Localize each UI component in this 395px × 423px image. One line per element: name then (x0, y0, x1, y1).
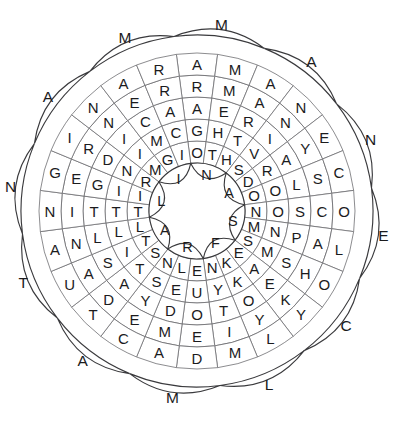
ring-letter: T (133, 203, 142, 220)
inner-petal-letter: L (157, 193, 165, 209)
ring-letter: O (191, 306, 203, 323)
ring-letter: D (192, 350, 203, 367)
ring-letter: M (158, 323, 171, 340)
outer-petal-letter: C (341, 317, 352, 334)
ring-letter: N (280, 114, 291, 131)
ring-letter: K (280, 291, 290, 308)
ring-letter: R (192, 78, 203, 95)
ring-letter: R (262, 162, 273, 179)
ring-letter: A (118, 75, 128, 92)
ring-letter: I (117, 182, 121, 199)
inner-petal-letter: A (160, 222, 170, 238)
ring-letter: K (221, 254, 231, 271)
ring-letter: S (313, 170, 323, 187)
ring-letter: A (192, 100, 202, 117)
ring-letter: E (265, 275, 275, 292)
inner-petals-layer (149, 163, 245, 259)
ring-letter: E (129, 94, 139, 111)
outer-petal-letter: M (166, 389, 179, 406)
ring-letter: D (103, 291, 114, 308)
ring-letter: P (291, 229, 301, 246)
outer-petal-letter: N (5, 178, 16, 195)
ring-letter: N (121, 162, 132, 179)
ring-letter: T (111, 203, 120, 220)
ring-letter: R (243, 113, 254, 130)
outer-petal-letter: N (365, 131, 376, 148)
ring-letter: S (103, 254, 113, 271)
ring-letter: L (93, 229, 101, 246)
outer-petal-letter: T (19, 274, 29, 291)
word-wheel-svg[interactable]: MANECLMATNAMOTHSDONMSEKNELNSTLTIRMGIGHTV… (0, 0, 395, 423)
outer-petal-letter: M (215, 16, 228, 33)
ring-letter: S (150, 244, 160, 261)
ring-letter: T (135, 260, 144, 277)
ring-letter: M (223, 82, 236, 99)
outer-petal-letter: A (306, 53, 317, 70)
outer-petal-letter: A (43, 88, 54, 105)
ring-letter: G (49, 164, 61, 181)
ring-letter: M (229, 61, 242, 78)
ring-letter: G (162, 151, 174, 168)
ring-letter: G (191, 122, 203, 139)
ring-letter: N (103, 114, 114, 131)
ring-letter: Y (140, 292, 150, 309)
ring-letter: I (125, 243, 129, 260)
inner-petal-letter: R (182, 239, 192, 255)
ring-letter: E (319, 129, 329, 146)
ring-letter: D (165, 302, 176, 319)
ring-letter: E (192, 328, 202, 345)
outer-petal-letter: A (77, 352, 88, 369)
ring-letter: E (219, 103, 229, 120)
ring-letter: E (129, 311, 139, 328)
ring-letter: N (45, 203, 56, 220)
ring-letter: I (180, 146, 184, 163)
ring-letter: C (171, 124, 182, 141)
outer-petal[interactable] (15, 144, 35, 234)
ring-letter: R (83, 140, 94, 157)
ring-letter: D (102, 151, 113, 168)
ring-letter: S (295, 203, 305, 220)
ring-letter: I (138, 145, 142, 162)
ring-letter: S (151, 273, 161, 290)
ring-letter: A (154, 344, 164, 361)
ring-letter: S (243, 232, 253, 249)
ring-letter: L (178, 259, 186, 276)
ring-letter: H (221, 151, 232, 168)
ring-letter: Y (296, 306, 306, 323)
ring-letter: A (254, 94, 264, 111)
ring-letter: O (338, 203, 350, 220)
ring-letter: A (281, 151, 291, 168)
ring-letter: R (159, 82, 170, 99)
ring-letter: T (89, 203, 98, 220)
ring-letter: I (122, 130, 126, 147)
ring-letter: M (149, 161, 162, 178)
ring-letter: L (335, 241, 343, 258)
ring-letter: S (281, 254, 291, 271)
ring-letter: N (296, 99, 307, 116)
ring-letter: K (232, 273, 242, 290)
inner-petal-letter: A (224, 185, 234, 201)
ring-letter: G (92, 176, 104, 193)
inner-petal-letter: S (228, 213, 238, 229)
ring-letter: Y (213, 281, 223, 298)
ring-letter: I (268, 130, 272, 147)
ring-letter: E (71, 170, 81, 187)
ring-letter: H (213, 124, 224, 141)
ring-letter: N (71, 235, 82, 252)
ring-letter: V (249, 145, 259, 162)
ring-letter: N (207, 259, 218, 276)
ring-letter: U (64, 276, 75, 293)
ring-letter: N (162, 254, 173, 271)
ring-letter: L (115, 223, 123, 240)
outer-petal[interactable] (360, 188, 380, 278)
ring-letter: O (191, 144, 203, 161)
ring-letter: A (192, 56, 202, 73)
inner-petal-letter: F (211, 235, 220, 251)
inner-petal-letter: I (176, 171, 180, 187)
ring-letter: C (334, 164, 345, 181)
ring-letter: O (318, 276, 330, 293)
ring-letter: A (165, 103, 175, 120)
ring-letter: H (300, 265, 311, 282)
ring-letter: C (118, 330, 129, 347)
outer-petal-letter: E (378, 227, 388, 244)
